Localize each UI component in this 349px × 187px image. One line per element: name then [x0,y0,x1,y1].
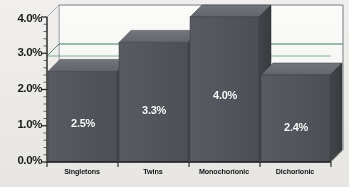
bar-value-label: 2.5% [71,117,95,129]
x-axis-tick-label-monochorionic: Monochorionic [199,167,249,176]
bar-value-label: 2.4% [284,121,308,133]
x-axis-tick-label-singletons: Singletons [64,167,100,176]
bar-twins[interactable] [119,30,200,162]
bar-value-label: 4.0% [213,89,237,101]
plot-area [0,0,349,187]
bar-singletons[interactable] [48,59,129,162]
bar-value-label: 3.3% [142,104,166,116]
bar-monochorionic[interactable] [190,5,271,162]
x-axis-tick-label-twins: Twins [143,167,162,176]
y-axis [41,17,47,162]
bar-chart: 4.0% 3.0% 2.0% 1.0% 0.0% [0,0,349,187]
x-axis-tick-label-dichorionic: Dichorionic [276,167,314,176]
bar-dichorionic[interactable] [261,63,342,162]
